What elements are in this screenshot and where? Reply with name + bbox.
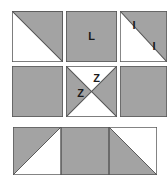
cell-r1c1-shape	[12, 11, 63, 62]
cell-r2c3-gray-ground	[120, 66, 167, 117]
cell-r2c1-shape	[12, 66, 63, 117]
cell-row2-col3-solid	[120, 66, 167, 117]
patchwork-block-diagram: L I I Z Z	[0, 0, 168, 186]
cell-row2-col2-hourglass: Z Z	[66, 66, 117, 117]
cell-r3c2-shape	[61, 127, 109, 175]
cell-row3-col1-half-square-triangle	[13, 127, 61, 175]
cell-row1-col2-solid: L	[66, 11, 117, 62]
cell-r3c2-gray-ground	[61, 127, 109, 175]
cell-r3c1-shape	[13, 127, 61, 175]
cell-row2-col1-solid	[12, 66, 63, 117]
cell-row3-col2-solid	[61, 127, 109, 175]
label-Z-top: Z	[91, 73, 102, 84]
cell-row3-col3-half-square-triangle	[109, 127, 157, 175]
label-Z-left: Z	[75, 88, 86, 99]
cell-row1-col3-half-square-triangle: I I	[120, 11, 167, 62]
label-I-upper: I	[129, 20, 139, 31]
cell-r3c3-shape	[109, 127, 157, 175]
cell-r2c3-shape	[120, 66, 167, 117]
label-L: L	[66, 11, 117, 62]
cell-row1-col1-half-square-triangle	[12, 11, 63, 62]
label-I-lower: I	[149, 41, 159, 52]
cell-r1c3-shape	[120, 11, 167, 62]
cell-r2c1-gray-ground	[12, 66, 63, 117]
